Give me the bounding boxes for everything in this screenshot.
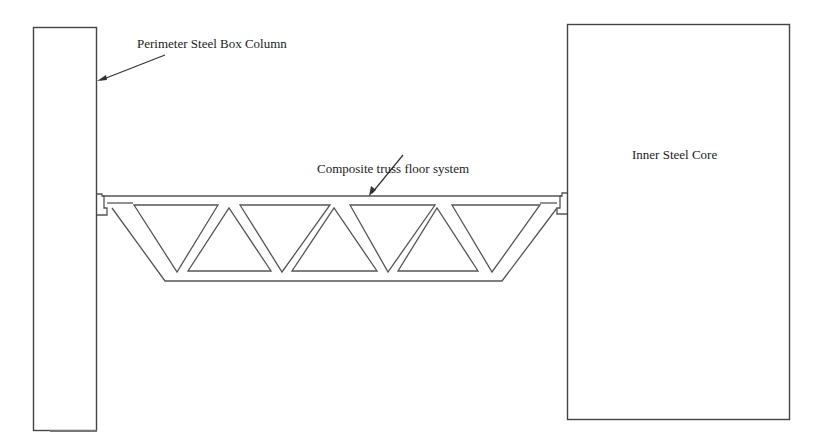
truss-opening-inverted-2	[240, 205, 330, 272]
truss-opening-inverted-1	[134, 205, 218, 272]
perimeter-column-label: Perimeter Steel Box Column	[137, 37, 287, 50]
perimeter-column-leader-arrow	[97, 55, 165, 81]
truss-opening-upright-3	[398, 208, 478, 271]
truss-opening-inverted-4	[452, 205, 540, 272]
truss-opening-upright-1	[188, 208, 271, 271]
left-seat-connection	[97, 194, 107, 215]
inner-core-label: Inner Steel Core	[632, 148, 717, 161]
truss-opening-inverted-3	[350, 205, 435, 272]
truss-floor	[103, 196, 562, 281]
perimeter-column	[34, 28, 98, 432]
truss-floor-label: Composite truss floor system	[317, 162, 469, 175]
diagram-canvas	[0, 0, 825, 448]
inner-core	[568, 25, 790, 420]
